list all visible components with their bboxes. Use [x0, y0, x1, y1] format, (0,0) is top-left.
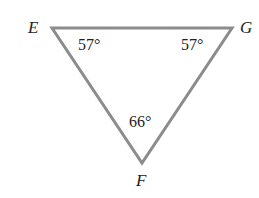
angle-label-f: 66° — [129, 113, 151, 130]
vertex-label-f: F — [135, 171, 147, 190]
angle-label-g: 57° — [181, 36, 203, 53]
vertex-label-g: G — [240, 18, 252, 37]
angle-label-e: 57° — [78, 36, 100, 53]
vertex-label-e: E — [27, 18, 39, 37]
triangle-diagram: E G F 57° 57° 66° — [0, 0, 259, 198]
